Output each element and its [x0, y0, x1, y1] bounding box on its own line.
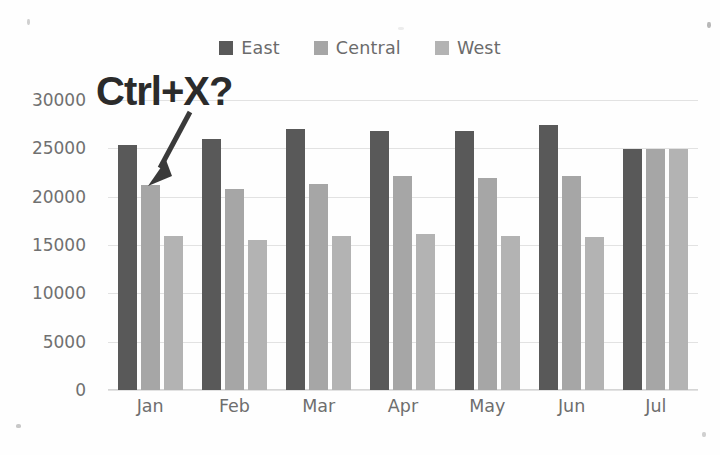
- chart-screenshot: EastCentralWest 300002500020000150001000…: [0, 0, 720, 455]
- scan-artifact-speck: [27, 19, 30, 25]
- gridline: [108, 390, 698, 391]
- legend-item-label: East: [241, 38, 280, 58]
- bar-group-feb: [192, 100, 276, 390]
- legend-swatch-icon: [435, 41, 449, 55]
- y-axis-tick-labels: 300002500020000150001000050000: [0, 100, 100, 390]
- bar-east-feb[interactable]: [202, 139, 221, 390]
- legend-item-label: Central: [336, 38, 401, 58]
- bar-west-jun[interactable]: [585, 237, 604, 390]
- y-axis-tick-label: 20000: [32, 187, 86, 207]
- scan-artifact-speck: [707, 22, 711, 28]
- bar-central-feb[interactable]: [225, 189, 244, 390]
- bar-group-jun: [529, 100, 613, 390]
- bar-group-mar: [277, 100, 361, 390]
- legend-item-west[interactable]: West: [435, 38, 501, 58]
- x-axis-tick-label: Mar: [277, 396, 361, 416]
- x-axis-tick-label: Feb: [192, 396, 276, 416]
- bar-east-jul[interactable]: [623, 149, 642, 390]
- y-axis-tick-label: 0: [75, 380, 86, 400]
- bar-group-may: [445, 100, 529, 390]
- bar-west-feb[interactable]: [248, 240, 267, 390]
- y-axis-tick-label: 15000: [32, 235, 86, 255]
- legend-item-east[interactable]: East: [219, 38, 280, 58]
- legend-item-central[interactable]: Central: [314, 38, 401, 58]
- x-axis-tick-label: Jun: [529, 396, 613, 416]
- x-axis-tick-labels: JanFebMarAprMayJunJul: [108, 396, 698, 416]
- bar-west-mar[interactable]: [332, 236, 351, 390]
- legend-swatch-icon: [219, 41, 233, 55]
- scan-artifact-speck: [702, 432, 706, 437]
- bar-central-apr[interactable]: [393, 176, 412, 390]
- annotation-arrow-icon: [140, 108, 200, 188]
- x-axis-tick-label: Jul: [614, 396, 698, 416]
- bar-west-apr[interactable]: [416, 234, 435, 390]
- scan-artifact-speck: [398, 27, 404, 30]
- y-axis-tick-label: 25000: [32, 138, 86, 158]
- bar-east-jan[interactable]: [118, 145, 137, 390]
- bar-central-jul[interactable]: [646, 149, 665, 390]
- bar-group-apr: [361, 100, 445, 390]
- bar-central-mar[interactable]: [309, 184, 328, 390]
- bar-group-jul: [614, 100, 698, 390]
- x-axis-tick-label: Apr: [361, 396, 445, 416]
- scan-artifact-speck: [16, 424, 21, 428]
- bar-west-may[interactable]: [501, 236, 520, 390]
- chart-legend: EastCentralWest: [0, 38, 720, 58]
- y-axis-tick-label: 30000: [32, 90, 86, 110]
- x-axis-tick-label: May: [445, 396, 529, 416]
- bar-east-jun[interactable]: [539, 125, 558, 390]
- legend-swatch-icon: [314, 41, 328, 55]
- x-axis-tick-label: Jan: [108, 396, 192, 416]
- y-axis-tick-label: 5000: [43, 332, 86, 352]
- bar-east-may[interactable]: [455, 131, 474, 390]
- bar-central-jan[interactable]: [141, 185, 160, 390]
- legend-item-label: West: [457, 38, 501, 58]
- bar-central-jun[interactable]: [562, 176, 581, 390]
- bar-central-may[interactable]: [478, 178, 497, 390]
- bar-west-jul[interactable]: [669, 149, 688, 390]
- bar-west-jan[interactable]: [164, 236, 183, 390]
- bar-east-apr[interactable]: [370, 131, 389, 390]
- y-axis-tick-label: 10000: [32, 283, 86, 303]
- bar-east-mar[interactable]: [286, 129, 305, 390]
